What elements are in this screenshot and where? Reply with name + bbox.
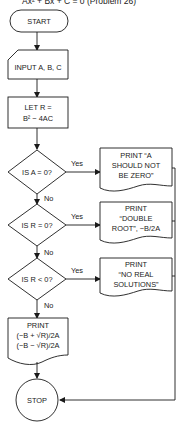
start-terminal: START bbox=[10, 10, 68, 32]
start-label: START bbox=[27, 17, 51, 26]
print-roots: PRINT (−B + √R)/2A (−B − √R)/2A bbox=[8, 318, 68, 365]
print3-line-3: SOLUTIONS” bbox=[113, 280, 159, 289]
decision3-label: IS R < 0? bbox=[21, 275, 52, 284]
yes-label-2: Yes bbox=[71, 212, 83, 221]
input-label: INPUT A, B, C bbox=[14, 63, 62, 72]
print3-line-1: PRINT bbox=[125, 260, 148, 269]
print-no-real-solutions: PRINT “NO REAL SOLUTIONS” bbox=[100, 258, 172, 296]
print1-line-3: BE ZERO” bbox=[119, 171, 154, 180]
let-line-1: LET R = bbox=[24, 103, 51, 112]
print-a-not-zero: PRINT “A SHOULD NOT BE ZERO” bbox=[100, 148, 172, 191]
no-label-2: No bbox=[44, 248, 53, 257]
stop-label: STOP bbox=[27, 396, 47, 405]
decision-r-negative: IS R < 0? bbox=[8, 258, 66, 300]
print2-line-3: ROOT”, −B/2A bbox=[112, 224, 160, 233]
print2-line-2: “DOUBLE bbox=[120, 214, 153, 223]
decision2-label: IS R = 0? bbox=[21, 221, 52, 230]
print2-line-1: PRINT bbox=[125, 204, 148, 213]
let-process-box: LET R = B² − 4AC bbox=[8, 97, 68, 128]
print4-line-2: (−B + √R)/2A bbox=[16, 331, 59, 340]
stop-terminal: STOP bbox=[16, 379, 58, 421]
let-line-2: B² − 4AC bbox=[23, 114, 54, 123]
decision-r-zero: IS R = 0? bbox=[8, 204, 66, 246]
print4-line-1: PRINT bbox=[27, 321, 50, 330]
no-label-3: No bbox=[44, 301, 53, 310]
print1-line-2: SHOULD NOT bbox=[112, 161, 161, 170]
flowchart: Ax² + Bx + C = 0 (Problem 26) START INPU… bbox=[0, 0, 180, 426]
decision1-label: IS A = 0? bbox=[22, 168, 52, 177]
yes-label-1: Yes bbox=[71, 159, 83, 168]
print3-line-2: “NO REAL bbox=[119, 270, 154, 279]
no-label-1b: No bbox=[44, 194, 53, 203]
print-double-root: PRINT “DOUBLE ROOT”, −B/2A bbox=[100, 202, 172, 243]
flowchart-title: Ax² + Bx + C = 0 (Problem 26) bbox=[22, 0, 136, 6]
print4-line-3: (−B − √R)/2A bbox=[16, 341, 59, 350]
input-box: INPUT A, B, C bbox=[8, 50, 68, 79]
decision-a-zero: IS A = 0? bbox=[8, 150, 66, 194]
yes-label-3: Yes bbox=[71, 266, 83, 275]
print1-line-1: PRINT “A bbox=[120, 151, 152, 160]
